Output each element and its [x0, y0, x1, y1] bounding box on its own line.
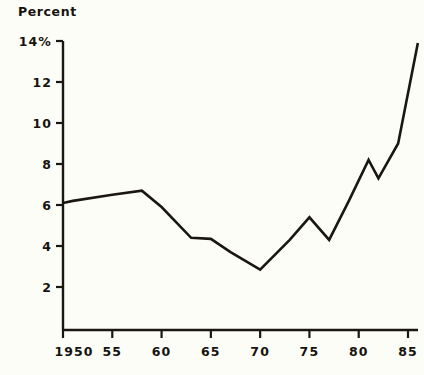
y-tick-label: 2 [42, 280, 52, 295]
x-tick-label: 80 [349, 344, 369, 359]
y-tick-label: 6 [42, 198, 52, 213]
x-tick-label: 70 [250, 344, 270, 359]
x-axis-ticks: 195055606570758085 [54, 330, 417, 359]
y-tick-label: 4 [42, 239, 52, 254]
x-tick-label: 85 [398, 344, 418, 359]
x-tick-label: 75 [300, 344, 320, 359]
y-axis-ticks: 2468101214% [19, 34, 63, 295]
y-tick-label: 10 [32, 116, 52, 131]
y-tick-label: 12 [32, 75, 52, 90]
y-tick-label: 14% [19, 34, 52, 49]
percent-line-chart: Percent 2468101214% 195055606570758085 [0, 0, 424, 375]
x-tick-label: 55 [102, 344, 122, 359]
data-series-line [63, 43, 418, 270]
y-tick-label: 8 [42, 157, 52, 172]
x-tick-label: 60 [152, 344, 172, 359]
chart-canvas: 2468101214% 195055606570758085 [0, 0, 424, 375]
x-tick-label: 1950 [54, 344, 93, 359]
x-tick-label: 65 [201, 344, 221, 359]
